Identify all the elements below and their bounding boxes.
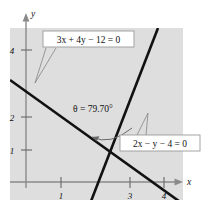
- x-tick-label-3: 3: [127, 191, 133, 201]
- equation-callout-line2-text: 2x − y − 4 = 0: [133, 139, 187, 149]
- y-tick-label-1: 1: [10, 146, 15, 156]
- y-axis-arrowhead: [23, 13, 30, 22]
- angle-annotation-label: θ = 79.70°: [73, 104, 113, 114]
- equation-callout-line1[interactable]: 3x + 4y − 12 = 0: [43, 31, 134, 47]
- equation-callout-line2[interactable]: 2x − y − 4 = 0: [120, 135, 200, 151]
- y-tick-label-4: 4: [10, 46, 15, 56]
- equation-callout-line1-text: 3x + 4y − 12 = 0: [57, 35, 121, 45]
- plot-canvas: y x 4 2 1 1 3 4: [0, 0, 205, 209]
- x-tick-label-1: 1: [59, 191, 64, 201]
- x-axis-label: x: [186, 177, 192, 187]
- y-axis-label: y: [30, 9, 36, 19]
- y-tick-label-2: 2: [10, 113, 15, 123]
- plot-panel-background: [10, 28, 183, 200]
- figure-container: y x 4 2 1 1 3 4: [0, 0, 205, 209]
